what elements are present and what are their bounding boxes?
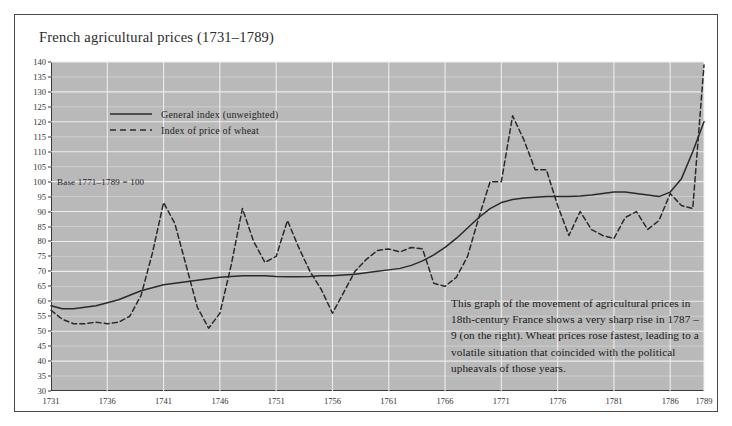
y-tick-label: 110 <box>34 147 46 156</box>
y-tick-label: 35 <box>38 372 47 381</box>
y-tick-mark <box>48 346 51 347</box>
y-tick-label: 135 <box>33 73 46 82</box>
y-tick-label: 45 <box>38 342 47 351</box>
x-tick-label: 1741 <box>155 397 172 406</box>
y-tick-label: 120 <box>33 118 46 127</box>
y-tick-mark <box>48 271 51 272</box>
y-tick-label: 30 <box>38 387 47 396</box>
y-tick-mark <box>48 286 51 287</box>
y-tick-mark <box>48 62 51 63</box>
y-tick-mark <box>48 76 51 77</box>
x-tick-label: 1731 <box>43 397 60 406</box>
y-tick-mark <box>48 121 51 122</box>
legend-label-wheat-index: Index of price of wheat <box>161 125 259 136</box>
chart-legend: General index (unweighted) Index of pric… <box>109 106 278 138</box>
y-tick-mark <box>48 91 51 92</box>
y-tick-mark <box>48 151 51 152</box>
y-tick-mark <box>48 331 51 332</box>
x-tick-label: 1786 <box>662 397 679 406</box>
y-tick-label: 130 <box>33 88 46 97</box>
y-tick-mark <box>48 316 51 317</box>
series-path <box>51 122 704 309</box>
y-tick-label: 80 <box>38 237 47 246</box>
y-tick-label: 50 <box>38 327 47 336</box>
y-tick-label: 65 <box>38 282 47 291</box>
y-tick-label: 90 <box>38 207 47 216</box>
y-tick-label: 125 <box>33 103 46 112</box>
y-tick-mark <box>48 166 51 167</box>
x-tick-label: 1751 <box>268 397 285 406</box>
x-tick-label: 1766 <box>437 397 454 406</box>
y-tick-label: 115 <box>34 133 46 142</box>
solid-line-icon <box>109 109 153 119</box>
y-tick-mark <box>48 241 51 242</box>
x-tick-label: 1746 <box>211 397 228 406</box>
y-tick-label: 40 <box>38 357 47 366</box>
x-tick-label: 1771 <box>493 397 510 406</box>
y-tick-label: 75 <box>38 252 47 261</box>
dashed-line-icon <box>109 125 153 135</box>
x-tick-label: 1781 <box>605 397 622 406</box>
x-tick-label: 1736 <box>99 397 116 406</box>
x-tick-label: 1756 <box>324 397 341 406</box>
y-tick-label: 85 <box>38 222 47 231</box>
y-tick-mark <box>48 301 51 302</box>
x-tick-label: 1776 <box>549 397 566 406</box>
y-tick-mark <box>48 376 51 377</box>
base-annotation: Base 1771–1789 = 100 <box>57 177 144 187</box>
plot-wrapper: 3035404550556065707580859095100105110115… <box>51 62 704 391</box>
y-tick-mark <box>48 226 51 227</box>
y-tick-label: 95 <box>38 192 47 201</box>
legend-item-general-index: General index (unweighted) <box>109 106 278 122</box>
chart-card: French agricultural prices (1731–1789) 3… <box>14 14 718 412</box>
y-tick-label: 140 <box>33 58 46 67</box>
y-tick-label: 55 <box>38 312 47 321</box>
y-tick-label: 105 <box>33 162 46 171</box>
y-tick-mark <box>48 136 51 137</box>
y-tick-mark <box>48 196 51 197</box>
y-tick-label: 100 <box>33 177 46 186</box>
page-title: French agricultural prices (1731–1789) <box>39 29 274 46</box>
x-tick-label: 1761 <box>380 397 397 406</box>
legend-item-wheat-index: Index of price of wheat <box>109 122 278 138</box>
y-tick-mark <box>48 211 51 212</box>
y-tick-mark <box>48 361 51 362</box>
legend-label-general-index: General index (unweighted) <box>161 109 278 120</box>
y-tick-mark <box>48 181 51 182</box>
y-tick-label: 70 <box>38 267 47 276</box>
y-tick-label: 60 <box>38 297 47 306</box>
caption-text: This graph of the movement of agricultur… <box>451 295 703 376</box>
x-tick-label: 1789 <box>696 397 713 406</box>
y-tick-mark <box>48 256 51 257</box>
y-tick-mark <box>48 391 51 392</box>
y-tick-mark <box>48 106 51 107</box>
